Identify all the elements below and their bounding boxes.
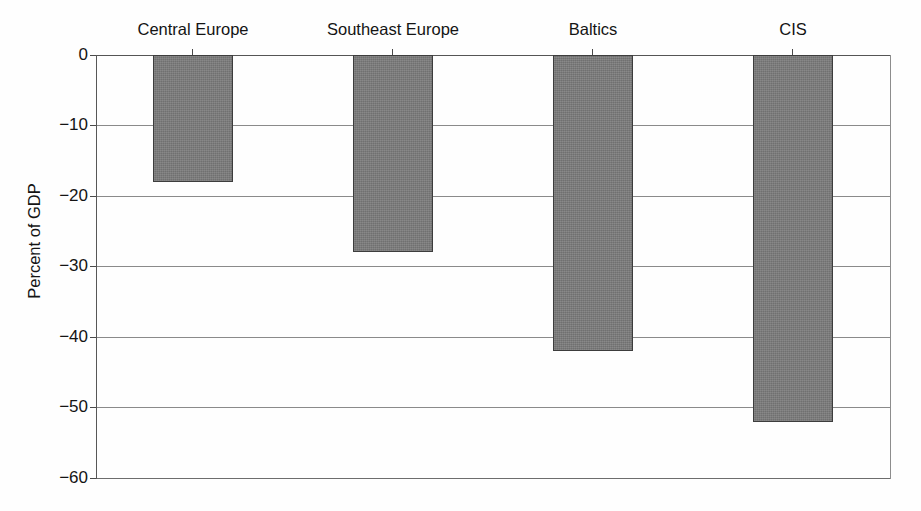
y-tick-minus50: −50	[0, 398, 88, 415]
y-axis-line	[96, 55, 97, 479]
y-tick-label-minus60: −60	[59, 469, 88, 486]
gridline-minus60	[97, 478, 891, 479]
y-tick-label-minus50: −50	[59, 398, 88, 415]
y-tick-label-0: 0	[79, 46, 88, 63]
y-tick-minus40: −40	[0, 328, 88, 345]
y-tick-minus20: −20	[0, 187, 88, 204]
y-tick-label-minus40: −40	[59, 328, 88, 345]
plot-right-border	[890, 55, 891, 479]
y-tick-label-minus10: −10	[59, 116, 88, 133]
category-label-central-europe: Central Europe	[138, 20, 249, 39]
y-tick-0: 0	[0, 46, 88, 63]
bar-baltics	[553, 55, 633, 351]
y-axis-title: Percent of GDP	[25, 151, 43, 331]
bar-cis	[753, 55, 833, 422]
y-tick-label-minus30: −30	[59, 257, 88, 274]
category-label-cis: CIS	[779, 20, 807, 39]
y-tick-minus10: −10	[0, 116, 88, 133]
bar-southeast-europe	[353, 55, 433, 252]
bar-central-europe	[153, 55, 233, 182]
bar-chart: Percent of GDP 0 −10 −20 −30 −40 −50 −60	[0, 0, 921, 511]
category-label-baltics: Baltics	[569, 20, 618, 39]
y-tick-label-minus20: −20	[59, 187, 88, 204]
y-tick-minus60: −60	[0, 469, 88, 486]
category-label-southeast-europe: Southeast Europe	[327, 20, 459, 39]
y-tick-minus30: −30	[0, 257, 88, 274]
